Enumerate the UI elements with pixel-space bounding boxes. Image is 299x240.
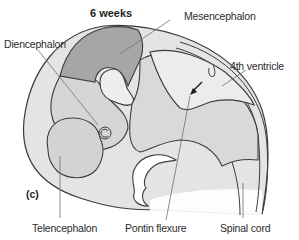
label-telencephalon: Telencephalon xyxy=(32,222,97,234)
label-spinal-cord: Spinal cord xyxy=(220,222,270,234)
label-pontine-flexure: Pontin flexure xyxy=(125,222,186,234)
embryo-brain-diagram: 6 weeks Diencephalon Mesencephalon 4th v… xyxy=(0,0,299,240)
label-diencephalon: Diencephalon xyxy=(4,38,66,50)
label-fourth-ventricle: 4th ventricle xyxy=(230,60,284,72)
label-mesencephalon: Mesencephalon xyxy=(184,10,256,22)
stage-title: 6 weeks xyxy=(90,7,132,19)
panel-label: (c) xyxy=(26,188,39,200)
